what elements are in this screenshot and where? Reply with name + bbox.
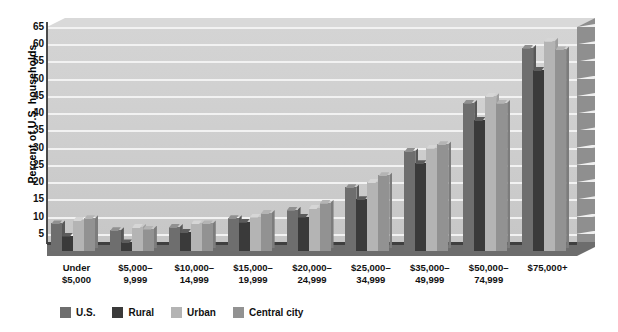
y-axis-tick-label: 25 (4, 160, 44, 170)
bar (367, 182, 378, 251)
bar-side (154, 226, 157, 248)
bar-side (448, 141, 451, 248)
bar-face (378, 175, 389, 251)
y-axis-tick-label: 5 (4, 229, 44, 239)
bar-face (202, 223, 213, 251)
bar-side (507, 100, 510, 248)
bar-group (169, 27, 213, 251)
bar-side (95, 215, 98, 248)
y-axis-tick-labels: 6560555045403530252015105 (0, 0, 44, 332)
bar-group (345, 27, 389, 251)
bar (84, 218, 95, 251)
bar-chart: Percent of U.S. households 6560555045403… (0, 0, 618, 332)
legend-swatch (60, 307, 71, 318)
bar-face (345, 187, 356, 251)
legend-swatch (112, 307, 123, 318)
bar (356, 199, 367, 251)
bar (239, 222, 250, 251)
bar (287, 210, 298, 251)
bar-face (239, 222, 250, 251)
bar (437, 144, 448, 251)
legend-item: Central city (233, 307, 303, 318)
bar-face (250, 217, 261, 251)
legend-label: Rural (128, 307, 154, 318)
y-axis-tick-label: 10 (4, 212, 44, 222)
bar-group (287, 27, 331, 251)
bar (191, 223, 202, 251)
bar-series-container (47, 18, 595, 258)
bar-face (287, 210, 298, 251)
bar-face (309, 208, 320, 251)
bar (132, 227, 143, 251)
bar (73, 220, 84, 251)
bar (485, 96, 496, 251)
y-axis-tick-label: 45 (4, 91, 44, 101)
bar-face (84, 218, 95, 251)
y-axis-tick-label: 15 (4, 194, 44, 204)
legend-swatch (171, 307, 182, 318)
bar (250, 217, 261, 251)
bar-face (437, 144, 448, 251)
bar (169, 227, 180, 251)
bar-face (426, 148, 437, 251)
bar-face (555, 49, 566, 251)
bar (51, 223, 62, 251)
bar-group (522, 27, 566, 251)
bar-face (404, 151, 415, 251)
bar (180, 232, 191, 251)
bar-face (51, 223, 62, 251)
bar (298, 217, 309, 251)
bar (110, 230, 121, 251)
bar-face (474, 120, 485, 251)
bar-face (522, 48, 533, 251)
y-axis-tick-label: 40 (4, 108, 44, 118)
bar-face (485, 96, 496, 251)
bar (533, 70, 544, 251)
y-axis-tick-label: 55 (4, 56, 44, 66)
bar-face (191, 223, 202, 251)
bar-side (331, 200, 334, 248)
bar-face (356, 199, 367, 251)
bar (143, 229, 154, 251)
bar (202, 223, 213, 251)
bar-group (110, 27, 154, 251)
bar (463, 103, 474, 251)
bar-face (121, 242, 132, 251)
bar (544, 41, 555, 251)
bar-face (415, 163, 426, 251)
bar-face (533, 70, 544, 251)
bar-face (496, 103, 507, 251)
bar-side (272, 210, 275, 248)
chart-legend: U.S.RuralUrbanCentral city (60, 305, 320, 319)
bar (345, 187, 356, 251)
bar (261, 213, 272, 251)
y-axis-tick-label: 60 (4, 39, 44, 49)
bar (496, 103, 507, 251)
bar (415, 163, 426, 251)
bar-side (389, 172, 392, 248)
bar-face (261, 213, 272, 251)
legend-swatch (233, 307, 244, 318)
y-axis-tick-label: 30 (4, 143, 44, 153)
bar-side (213, 220, 216, 248)
legend-item: U.S. (60, 307, 95, 318)
legend-item: Rural (112, 307, 154, 318)
bar (228, 218, 239, 251)
y-axis-tick-label: 65 (4, 22, 44, 32)
legend-item: Urban (171, 307, 216, 318)
bar-face (169, 227, 180, 251)
bar (522, 48, 533, 251)
x-axis-tick-label: $75,000+ (512, 262, 583, 274)
bar (378, 175, 389, 251)
bar-face (463, 103, 474, 251)
y-axis-tick-label: 35 (4, 125, 44, 135)
bar-face (320, 203, 331, 251)
y-axis-tick-label: 50 (4, 74, 44, 84)
bar-group (463, 27, 507, 251)
bar-face (73, 220, 84, 251)
bar (426, 148, 437, 251)
bar-face (544, 41, 555, 251)
bar-face (298, 217, 309, 251)
bar (121, 242, 132, 251)
legend-label: Central city (249, 307, 303, 318)
